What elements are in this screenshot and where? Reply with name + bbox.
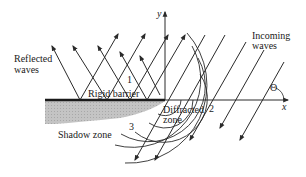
shadow-label: Shadow zone xyxy=(58,129,112,140)
incoming-label-2: waves xyxy=(252,40,277,51)
region-1-label: 1 xyxy=(127,74,132,85)
shadow-zone-region xyxy=(45,101,165,124)
region-3-label: 3 xyxy=(129,121,134,132)
diffraction-diagram: Reflected waves Incoming waves Rigid bar… xyxy=(0,0,306,177)
theta-label: Θ xyxy=(270,82,277,93)
x-axis-label: x xyxy=(281,101,287,112)
reflected-label-2: waves xyxy=(14,64,39,75)
region-2-label: 2 xyxy=(209,103,214,114)
reflected-label-1: Reflected xyxy=(14,53,52,64)
diffracted-label-2: zone xyxy=(163,114,182,125)
barrier-label: Rigid barrier xyxy=(88,88,140,99)
y-axis-label: y xyxy=(156,8,162,19)
